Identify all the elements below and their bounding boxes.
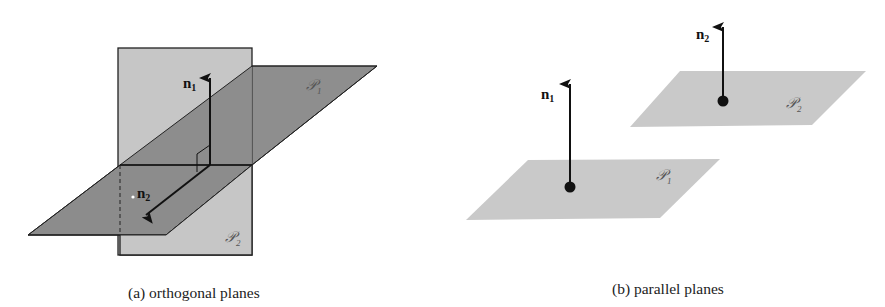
- plane-p1-lower: [466, 159, 720, 220]
- caption-b: (b) parallel planes: [612, 280, 724, 298]
- white-dot-marker: [131, 195, 134, 198]
- label-n2: n2: [696, 26, 709, 44]
- label-n1: n1: [541, 86, 554, 104]
- plane-p2-upper: [630, 71, 866, 127]
- point-on-p1: [565, 182, 576, 193]
- point-on-p2: [718, 96, 729, 107]
- figure-b-parallel-planes: n1 n2 𝒫1 𝒫2: [466, 26, 866, 220]
- figure-a-orthogonal-planes: n1 n2 𝒫1 𝒫2: [28, 48, 377, 255]
- caption-a: (a) orthogonal planes: [128, 284, 260, 302]
- figure-canvas: n1 n2 𝒫1 𝒫2 n1 n2 𝒫1 𝒫2: [0, 0, 885, 307]
